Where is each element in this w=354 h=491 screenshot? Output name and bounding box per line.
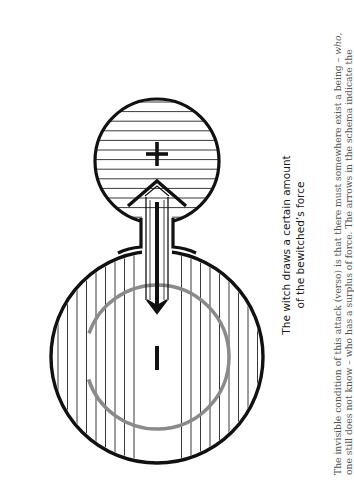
figure-caption: The witch draws a certain amount of the … (279, 155, 307, 334)
caption-line-2: of the bewitched’s force (293, 155, 307, 334)
caption-line-1: The witch draws a certain amount (279, 155, 293, 334)
body-line-2: one still does not know – who has a surp… (343, 5, 354, 475)
body-line-1: The invisible condition of this attack (… (332, 5, 343, 475)
body-paragraph: The invisible condition of this attack (… (332, 5, 354, 475)
